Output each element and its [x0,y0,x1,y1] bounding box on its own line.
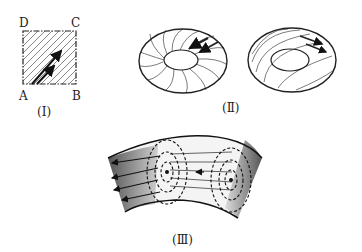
corner-label-c: C [71,17,80,29]
figure-1-caption: (Ⅰ) [37,106,51,118]
field-arrow-icon [200,42,218,52]
field-arrow-icon [300,36,322,44]
figure-1-square [0,31,122,84]
field-arrow-icon [190,38,208,48]
diagram-canvas [0,0,362,252]
corner-label-b: B [72,90,81,102]
corner-label-d: D [19,17,29,29]
figure-3-tube [108,136,262,218]
figure-2-torus-left [139,29,227,93]
figure-2-caption: (Ⅱ) [222,102,240,114]
figure-3-caption: (Ⅲ) [172,234,193,246]
figure-2-torus-right [248,28,336,92]
field-arrow-icon [306,44,326,52]
corner-label-a: A [19,90,28,102]
